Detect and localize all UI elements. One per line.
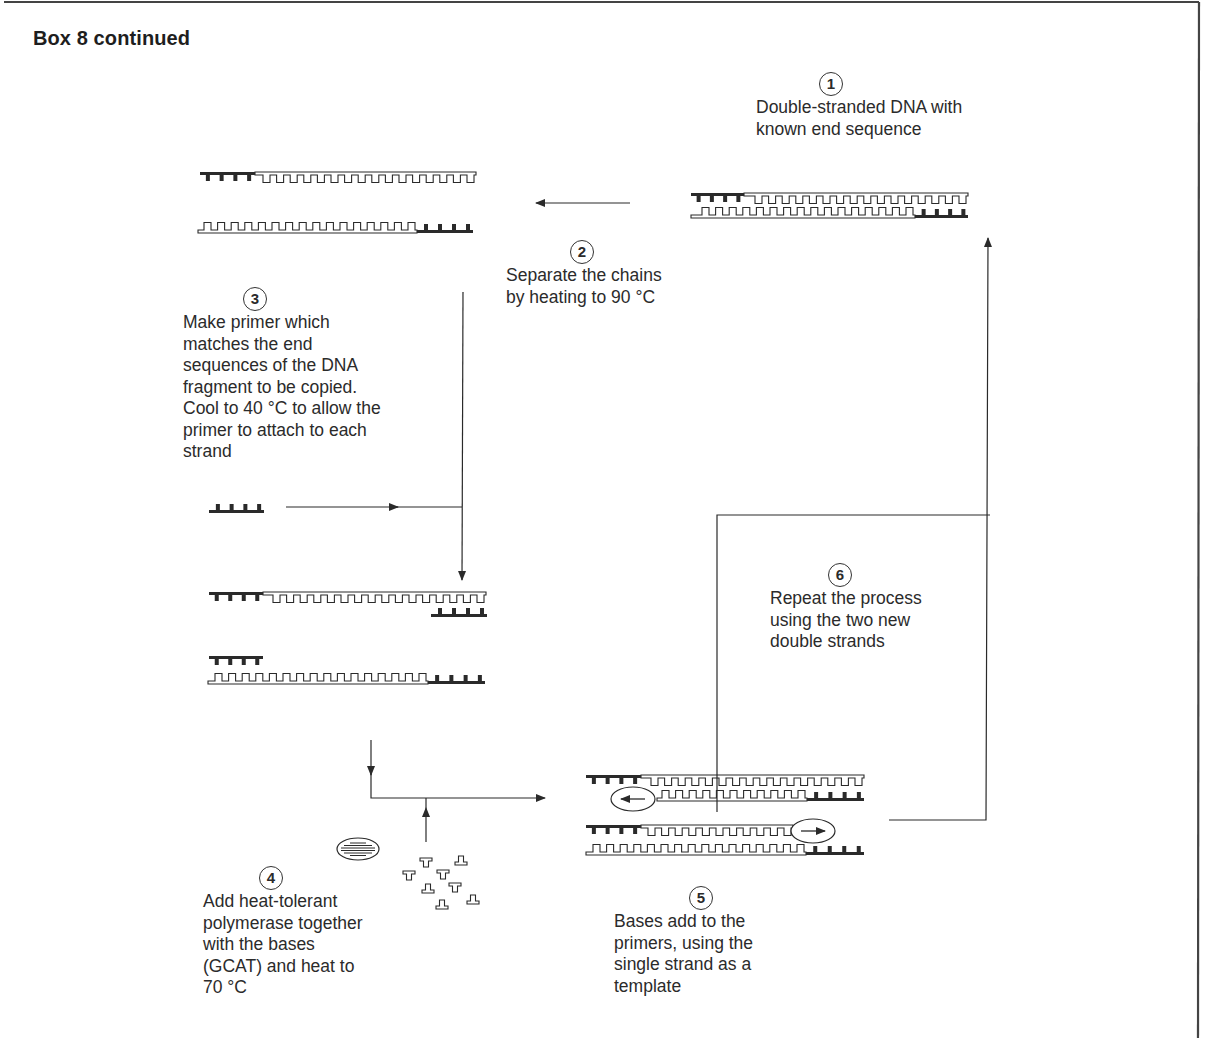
step-number-badge: 4 bbox=[259, 866, 283, 890]
primer-icon bbox=[431, 608, 487, 617]
caption-line: Add heat-tolerant bbox=[203, 891, 363, 913]
step-1-caption: 1 Double-stranded DNA with known end seq… bbox=[756, 72, 962, 140]
dna-single-strand-icon bbox=[657, 791, 807, 802]
polymerase-icon bbox=[791, 819, 835, 843]
step-3-caption: 3 Make primer which matches the end sequ… bbox=[183, 287, 381, 463]
step-number-badge: 2 bbox=[570, 240, 594, 264]
step-5-caption: 5 Bases add to the primers, using the si… bbox=[614, 886, 753, 997]
step-number-badge: 6 bbox=[828, 563, 852, 587]
step-4-caption: 4 Add heat-tolerant polymerase together … bbox=[203, 866, 363, 999]
caption-line: Repeat the process bbox=[770, 588, 922, 610]
primer-icon bbox=[691, 193, 744, 202]
primer-icon bbox=[915, 209, 968, 218]
caption-line: Make primer which bbox=[183, 312, 381, 334]
box-frame: Box 8 continued 1 Double-stranded DNA wi… bbox=[0, 0, 1213, 1038]
dna-single-strand-icon bbox=[691, 208, 915, 219]
step-number-badge: 5 bbox=[689, 886, 713, 910]
dna-single-strand-icon bbox=[586, 845, 806, 856]
polymerase-icon bbox=[337, 838, 379, 860]
free-bases-icon bbox=[403, 856, 479, 909]
primer-icon bbox=[586, 775, 641, 784]
primer-icon bbox=[209, 656, 263, 665]
primer-icon bbox=[200, 172, 255, 181]
dna-single-strand-icon bbox=[744, 193, 968, 204]
caption-line: sequences of the DNA bbox=[183, 355, 381, 377]
caption-line: fragment to be copied. bbox=[183, 377, 381, 399]
caption-line: single strand as a bbox=[614, 954, 753, 976]
dna-single-strand-icon bbox=[263, 592, 486, 603]
primer-icon bbox=[807, 792, 864, 801]
step-number-badge: 3 bbox=[243, 287, 267, 311]
dna-single-strand-icon bbox=[198, 223, 417, 234]
dna-single-strand-icon bbox=[641, 775, 864, 786]
primer-icon bbox=[417, 224, 473, 233]
primer-icon bbox=[209, 504, 264, 513]
dna-single-strand-icon bbox=[208, 674, 428, 685]
caption-line: matches the end bbox=[183, 334, 381, 356]
caption-line: polymerase together bbox=[203, 913, 363, 935]
caption-line: known end sequence bbox=[756, 119, 962, 141]
step-number-badge: 1 bbox=[819, 72, 843, 96]
primer-icon bbox=[806, 846, 864, 855]
frame-border bbox=[4, 2, 1199, 1038]
caption-line: 70 °C bbox=[203, 977, 363, 999]
caption-line: Bases add to the bbox=[614, 911, 753, 933]
dna-single-strand-icon bbox=[255, 172, 476, 183]
step-2-caption: 2 Separate the chains by heating to 90 °… bbox=[506, 240, 662, 308]
step-6-caption: 6 Repeat the process using the two new d… bbox=[770, 563, 922, 653]
caption-line: Double-stranded DNA with bbox=[756, 97, 962, 119]
polymerase-icon bbox=[611, 787, 655, 811]
caption-line: by heating to 90 °C bbox=[506, 287, 662, 309]
caption-line: with the bases bbox=[203, 934, 363, 956]
primer-icon bbox=[209, 592, 263, 601]
primer-icon bbox=[428, 675, 485, 684]
primer-icon bbox=[586, 825, 641, 834]
dna-single-strand-icon bbox=[641, 825, 793, 836]
caption-line: double strands bbox=[770, 631, 922, 653]
box-title: Box 8 continued bbox=[33, 27, 190, 50]
arrow-icon bbox=[462, 292, 463, 580]
caption-line: primer to attach to each bbox=[183, 420, 381, 442]
caption-line: strand bbox=[183, 441, 381, 463]
caption-line: using the two new bbox=[770, 610, 922, 632]
caption-line: Separate the chains bbox=[506, 265, 662, 287]
caption-line: primers, using the bbox=[614, 933, 753, 955]
caption-line: Cool to 40 °C to allow the bbox=[183, 398, 381, 420]
caption-line: template bbox=[614, 976, 753, 998]
pcr-diagram bbox=[0, 0, 1213, 1038]
caption-line: (GCAT) and heat to bbox=[203, 956, 363, 978]
